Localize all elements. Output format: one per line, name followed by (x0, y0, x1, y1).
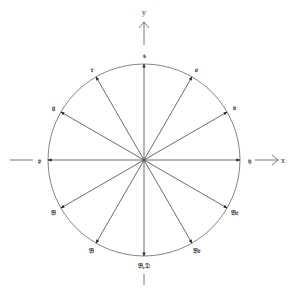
vector-arrow (144, 77, 192, 160)
vector-circle-diagram: y x 𝔰𝔬𝔳𝔶𝔅𝔯𝔅𝔯𝔅,𝔇𝔅𝔅𝔭𝔤𝔯 (0, 0, 289, 289)
vector-label: 𝔶 (247, 156, 252, 165)
vector-arrow (96, 77, 144, 160)
x-axis-label: x (281, 157, 285, 165)
vector-arrow (144, 160, 227, 208)
vector-label: 𝔬 (195, 65, 198, 74)
vector-arrow (96, 160, 144, 243)
vector-label: 𝔅𝔯 (192, 246, 201, 255)
vector-label: 𝔯 (90, 65, 94, 74)
diagram-canvas: y x 𝔰𝔬𝔳𝔶𝔅𝔯𝔅𝔯𝔅,𝔇𝔅𝔅𝔭𝔤𝔯 (0, 0, 289, 289)
vector-label: 𝔳 (232, 103, 236, 112)
vector-label: 𝔅 (50, 208, 56, 217)
vector-label: 𝔭 (37, 156, 42, 165)
vector-label: 𝔤 (52, 103, 56, 112)
vector-arrow (61, 112, 144, 160)
vector-group (48, 64, 240, 256)
y-axis-label: y (141, 9, 146, 17)
vector-arrow (144, 160, 192, 243)
vector-arrow (61, 160, 144, 208)
vector-label: 𝔅 (88, 246, 94, 255)
vector-label: 𝔅𝔯 (230, 208, 239, 217)
vector-label: 𝔅,𝔇 (137, 261, 150, 270)
vector-label: 𝔰 (142, 51, 146, 60)
vector-arrow (144, 112, 227, 160)
